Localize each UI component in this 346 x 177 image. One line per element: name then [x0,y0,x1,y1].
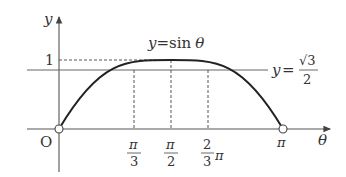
tick-pi: π [276,135,286,150]
origin-label: O [40,133,52,151]
svg-text:π: π [214,148,224,163]
origin-open-point [55,125,63,133]
curve-label: y=sinθ [147,34,204,52]
sine-diagram: y θ O 1 y=sinθ y = √3 2 π 3 π 2 2 3 π π [0,0,346,177]
line-label-num: √3 [299,53,316,68]
pi-open-point [279,125,287,133]
tick-2pi-over-3: 2 3 π [201,137,224,169]
svg-text:3: 3 [203,154,211,169]
tick-pi-over-3: π 3 [127,137,141,169]
svg-text:π: π [165,137,175,152]
line-label-eq: = [282,61,295,79]
svg-text:2: 2 [167,154,175,169]
y-axis-label: y [43,10,53,28]
svg-text:3: 3 [130,154,138,169]
tick-pi-over-2: π 2 [164,137,178,169]
line-label-y: y [271,61,281,79]
svg-text:π: π [128,137,138,152]
x-axis-label: θ [318,131,327,149]
svg-text:2: 2 [203,137,211,152]
line-label-den: 2 [303,72,311,87]
y-tick-1: 1 [45,52,54,68]
